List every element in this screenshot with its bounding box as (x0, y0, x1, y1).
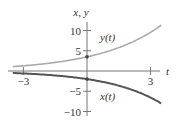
y-tick-label: −10 (64, 106, 82, 118)
intercept-point (85, 77, 89, 81)
y-tick-label: 5 (76, 45, 82, 57)
x-axis-label: t (166, 65, 170, 77)
chart: −33105−5−10 x, y t y(t) x(t) (0, 0, 177, 123)
intercept-point (85, 55, 89, 59)
x-tick-label: −3 (18, 75, 30, 87)
y-tick-label: −5 (69, 85, 81, 97)
axes: −33105−5−10 (8, 22, 160, 118)
y-axis-label: x, y (72, 6, 88, 18)
x-tick-label: 3 (148, 75, 154, 87)
y-tick-label: 10 (70, 25, 82, 37)
series-label-x: x(t) (99, 90, 116, 103)
series-label-y: y(t) (99, 31, 116, 44)
